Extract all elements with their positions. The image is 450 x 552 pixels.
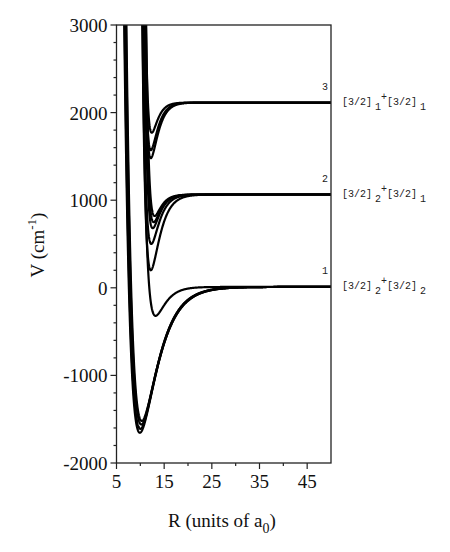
- x-tick-label: 25: [202, 471, 221, 492]
- asymptote-state-label: [3/2]1+[3/2]1: [342, 92, 426, 113]
- potential-curve-chart: 3000200010000-1000-2000 515253545 1[3/2]…: [0, 0, 450, 552]
- asymptote-state-label: [3/2]2+[3/2]1: [342, 184, 426, 205]
- y-axis-title: V (cm-1): [24, 213, 49, 278]
- x-axis: 515253545: [112, 463, 317, 492]
- asymptote-state-label: [3/2]2+[3/2]2: [342, 276, 426, 297]
- asymptote-number: 1: [322, 266, 328, 277]
- x-tick-label: 15: [155, 471, 174, 492]
- y-tick-label: -2000: [63, 453, 107, 474]
- y-tick-label: 0: [98, 278, 108, 299]
- y-tick-label: 2000: [70, 103, 108, 124]
- asymptote-number: 2: [322, 174, 328, 185]
- plot-frame: [117, 25, 332, 463]
- x-tick-label: 5: [112, 471, 122, 492]
- x-axis-title: R (units of a0): [168, 510, 276, 536]
- potential-curves: [117, 0, 332, 433]
- x-tick-label: 35: [250, 471, 269, 492]
- potential-curve: [117, 0, 332, 133]
- asymptote-labels: 1[3/2]2+[3/2]22[3/2]2+[3/2]13[3/2]1+[3/2…: [322, 82, 426, 297]
- y-axis: 3000200010000-1000-2000: [63, 15, 116, 474]
- y-tick-label: -1000: [63, 365, 107, 386]
- y-tick-label: 1000: [70, 190, 108, 211]
- x-tick-label: 45: [298, 471, 317, 492]
- asymptote-number: 3: [322, 82, 328, 93]
- y-tick-label: 3000: [70, 15, 108, 36]
